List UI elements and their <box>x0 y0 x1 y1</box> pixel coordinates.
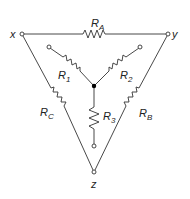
label-r3: R3 <box>103 110 116 125</box>
label-r2: R2 <box>120 69 133 84</box>
resistor-rc <box>23 36 93 170</box>
label-rb: RB <box>139 107 153 122</box>
label-r1: R1 <box>58 69 70 84</box>
resistor-rb <box>95 36 167 170</box>
resistor-r1 <box>50 48 94 86</box>
terminal-r2 <box>138 45 142 49</box>
circuit-diagram: x y z RA RB RC R1 R2 R3 <box>0 0 190 199</box>
terminal-z <box>92 170 96 174</box>
resistor-r3 <box>89 86 99 144</box>
terminal-x <box>20 32 24 36</box>
label-z: z <box>90 178 97 190</box>
terminal-r1 <box>47 45 51 49</box>
label-y: y <box>171 28 179 40</box>
resistor-ra <box>24 30 166 38</box>
label-rc: RC <box>40 106 54 121</box>
label-x: x <box>9 28 16 40</box>
terminal-y <box>166 32 170 36</box>
center-node <box>92 84 96 88</box>
label-ra: RA <box>91 17 104 32</box>
terminal-r3 <box>92 144 96 148</box>
